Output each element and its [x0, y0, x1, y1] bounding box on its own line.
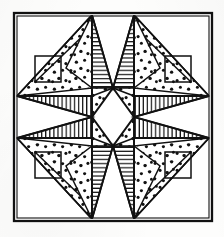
quilt-block-drawing [0, 0, 224, 237]
artwork-canvas [0, 0, 224, 237]
